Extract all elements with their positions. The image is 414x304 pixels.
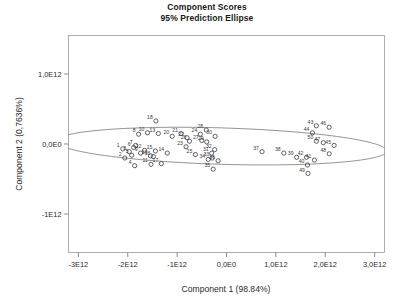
data-point-label: 41 (306, 153, 312, 159)
data-point-label: 42 (298, 150, 304, 156)
data-point-label: 5 (126, 148, 129, 154)
data-point-label: 10 (139, 126, 145, 132)
data-point (211, 167, 215, 171)
data-point (332, 143, 336, 147)
data-point-label: 35 (204, 162, 210, 168)
data-point-label: 38 (275, 146, 281, 152)
data-point-label: 45 (325, 139, 331, 145)
x-tick-label-2: -1E12 (167, 260, 187, 269)
data-point (213, 148, 217, 152)
data-point-label: 17 (153, 157, 159, 163)
data-point (282, 151, 286, 155)
data-point (193, 152, 197, 156)
data-point (260, 150, 264, 154)
component-scores-chart: Component Scores 95% Prediction Ellipse … (0, 0, 414, 304)
x-axis-title: Component 1 (98.84%) (182, 284, 271, 294)
data-point-label: 48 (320, 147, 326, 153)
data-point (159, 162, 163, 166)
data-point-label: 39 (288, 150, 294, 156)
data-point-label: 4 (129, 159, 132, 165)
data-point-label: 25 (187, 148, 193, 154)
data-point-label: 8 (133, 127, 136, 133)
data-point-label: 23 (177, 140, 183, 146)
x-axis-tick-labels: -3E12-2E12-1E120,0E01,0E122,0E123,0E12 (69, 260, 387, 269)
x-tick-label-5: 2,0E12 (314, 260, 337, 269)
data-point-label: 20 (163, 129, 169, 135)
data-point-label: 37 (253, 145, 259, 151)
data-point (137, 132, 141, 136)
y-axis-title: Component 2 (0,7636%) (14, 97, 24, 191)
data-point (130, 153, 134, 157)
data-point-label: 34 (199, 153, 205, 159)
data-point-label: 14 (158, 146, 164, 152)
data-point (153, 149, 157, 153)
data-point-label: 49 (299, 167, 305, 173)
data-point-label: 50 (308, 134, 314, 140)
data-point-label: 47 (314, 136, 320, 142)
data-point-label: 36 (209, 154, 215, 160)
x-tick-label-0: -3E12 (69, 260, 89, 269)
data-point (156, 131, 160, 135)
y-tick-label-2: -1E12 (42, 210, 62, 219)
data-point (314, 124, 318, 128)
data-point (165, 151, 169, 155)
data-point (133, 164, 137, 168)
data-point (312, 158, 316, 162)
x-tick-label-3: 0,0E0 (217, 260, 236, 269)
x-tick-label-4: 1,0E12 (264, 260, 287, 269)
y-axis-tick-labels: 1,0E120,0E0-1E12 (38, 70, 61, 219)
data-point-label: 40 (299, 158, 305, 164)
data-point-label: 7 (130, 139, 133, 145)
data-point-label: 2 (119, 151, 122, 157)
x-tick-label-6: 3,0E12 (363, 260, 386, 269)
data-point-label: 32 (206, 143, 212, 149)
data-point (216, 159, 220, 163)
data-point-label: 29 (198, 135, 204, 141)
y-tick-label-1: 0,0E0 (42, 140, 61, 149)
data-point-label: 44 (304, 126, 310, 132)
x-tick-label-1: -2E12 (118, 260, 138, 269)
scatter-plot-svg: -3E12-2E12-1E120,0E01,0E122,0E123,0E12 1… (0, 0, 414, 304)
data-point-label: 43 (308, 119, 314, 125)
data-point-label: 19 (142, 149, 148, 155)
data-point-label: 11 (143, 157, 148, 163)
data-point-label: 1 (117, 142, 120, 148)
data-point (170, 134, 174, 138)
data-point (305, 163, 309, 167)
data-point (306, 171, 310, 175)
prediction-ellipse (56, 127, 387, 165)
data-point-label: 26 (181, 134, 187, 140)
y-tick-label-0: 1,0E12 (38, 70, 61, 79)
x-axis-ticks (78, 253, 374, 258)
y-axis-ticks (64, 74, 69, 214)
data-point-label: 28 (197, 123, 203, 129)
data-point-label: 46 (320, 120, 326, 126)
data-point-label: 18 (147, 114, 153, 120)
data-point (327, 125, 331, 129)
data-point (213, 134, 217, 138)
data-point-label: 30 (206, 129, 212, 135)
data-point (327, 152, 331, 156)
data-point (154, 119, 158, 123)
data-point (149, 162, 153, 166)
data-point-label: 13 (150, 127, 156, 133)
data-point (187, 139, 191, 143)
